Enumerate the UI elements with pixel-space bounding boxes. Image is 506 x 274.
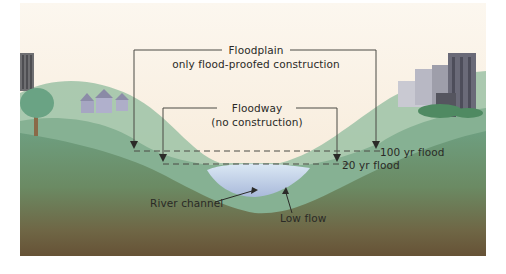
low-flow-label: Low flow [280, 212, 326, 224]
floodplain-sublabel: only flood-proofed construction [172, 58, 340, 70]
floodway-label: Floodway [232, 102, 283, 114]
flood-20-label: 20 yr flood [342, 159, 400, 171]
river-channel-label: River channel [150, 197, 223, 209]
diagram-panel: Floodplain only flood-proofed constructi… [20, 3, 486, 256]
flood-100-label: 100 yr flood [380, 146, 445, 158]
floodplain-label: Floodplain [228, 44, 283, 56]
tree-canopy [20, 88, 54, 118]
floodplain-cross-section [20, 3, 486, 256]
floodway-sublabel: (no construction) [211, 116, 303, 128]
